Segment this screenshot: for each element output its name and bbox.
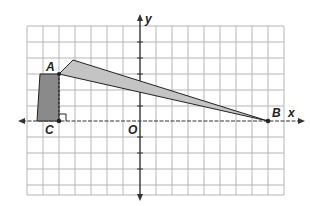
y-axis-up-arrow-icon: [137, 14, 143, 21]
x-axis-right-arrow-icon: [298, 118, 305, 124]
origin-label: O: [128, 124, 137, 136]
y-axis-label: y: [145, 13, 152, 25]
grid: [27, 26, 284, 195]
point-c-label: C: [45, 124, 54, 136]
x-axis-left-arrow-icon: [18, 118, 25, 124]
x-axis-label: x: [288, 107, 295, 119]
coordinate-plane: [0, 0, 310, 206]
point-b: [266, 119, 271, 124]
point-b-label: B: [272, 107, 281, 119]
point-a-label: A: [46, 61, 55, 73]
point-c: [57, 119, 62, 124]
tower-shape: [37, 74, 59, 121]
point-a: [57, 72, 61, 76]
y-axis: [137, 14, 143, 201]
y-axis-down-arrow-icon: [137, 194, 143, 201]
